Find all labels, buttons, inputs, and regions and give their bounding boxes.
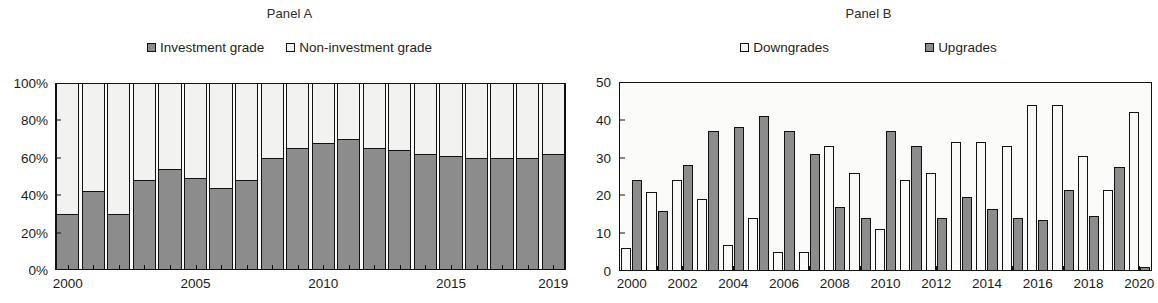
bar-segment-non-investment-grade bbox=[82, 83, 105, 191]
bar-segment-investment-grade bbox=[107, 214, 130, 270]
x-axis-tick-label: 2008 bbox=[820, 276, 850, 291]
bar-segment-non-investment-grade bbox=[439, 83, 462, 156]
bar-downgrades bbox=[926, 173, 936, 271]
y-axis-tick-label: 100% bbox=[13, 76, 48, 91]
y-axis-tick bbox=[619, 157, 625, 158]
x-axis-tick-label: 2019 bbox=[538, 276, 568, 291]
table-row bbox=[234, 83, 260, 270]
y-axis-tick-label: 0% bbox=[28, 263, 48, 278]
table-row bbox=[183, 83, 209, 270]
bar-segment-non-investment-grade bbox=[414, 83, 437, 154]
legend-label: Non-investment grade bbox=[299, 40, 432, 55]
bar-downgrades bbox=[672, 180, 682, 271]
x-axis-tick bbox=[784, 266, 785, 271]
bar-segment-investment-grade bbox=[312, 143, 335, 270]
y-axis-tick bbox=[55, 120, 61, 121]
table-row bbox=[1127, 82, 1152, 271]
bar-segment-non-investment-grade bbox=[107, 83, 130, 214]
table-row bbox=[695, 82, 720, 271]
table-row bbox=[873, 82, 898, 271]
bar-segment-non-investment-grade bbox=[133, 83, 156, 180]
x-axis-tick bbox=[272, 265, 273, 270]
bar-segment-investment-grade bbox=[516, 158, 539, 270]
bar-downgrades bbox=[1052, 105, 1062, 271]
x-axis-tick-label: 2016 bbox=[1023, 276, 1053, 291]
table-row bbox=[489, 83, 515, 270]
x-axis-tick bbox=[682, 266, 683, 271]
x-axis-tick bbox=[1012, 266, 1013, 271]
y-axis-tick-label: 10 bbox=[596, 226, 611, 241]
x-axis-tick bbox=[451, 265, 452, 270]
bar-upgrades bbox=[683, 165, 693, 271]
x-axis-tick bbox=[502, 265, 503, 270]
x-axis-tick-label: 2018 bbox=[1074, 276, 1104, 291]
bar-upgrades bbox=[1140, 267, 1150, 271]
y-axis-tick-label: 0 bbox=[603, 264, 611, 279]
panel-b-plot-area bbox=[619, 82, 1152, 271]
x-axis-tick-label: 2005 bbox=[180, 276, 210, 291]
bar-segment-investment-grade bbox=[235, 180, 258, 270]
y-axis-tick-label: 60% bbox=[21, 150, 48, 165]
bar-downgrades bbox=[646, 192, 656, 271]
legend-swatch-icon bbox=[286, 43, 295, 52]
x-axis-tick bbox=[860, 266, 861, 271]
bar-downgrades bbox=[951, 142, 961, 271]
figure-two-panel-bar-charts: Panel A Investment grade Non-investment … bbox=[0, 0, 1158, 303]
legend-swatch-icon bbox=[925, 43, 934, 52]
panel-b: Panel B Downgrades Upgrades 01020304050 … bbox=[579, 0, 1158, 303]
table-row bbox=[81, 83, 107, 270]
x-axis-tick bbox=[298, 265, 299, 270]
bar-downgrades bbox=[1027, 105, 1037, 271]
bar-segment-investment-grade bbox=[158, 169, 181, 270]
x-axis-tick-label: 2010 bbox=[870, 276, 900, 291]
legend-item-investment-grade: Investment grade bbox=[147, 40, 264, 55]
bar-downgrades bbox=[1078, 156, 1088, 271]
bar-segment-non-investment-grade bbox=[465, 83, 488, 158]
bar-upgrades bbox=[1114, 167, 1124, 271]
x-axis-tick bbox=[632, 266, 633, 271]
table-row bbox=[721, 82, 746, 271]
bar-upgrades bbox=[1038, 220, 1048, 271]
bar-upgrades bbox=[835, 207, 845, 271]
legend-swatch-icon bbox=[740, 43, 749, 52]
x-axis-tick-label: 2015 bbox=[436, 276, 466, 291]
bar-downgrades bbox=[697, 199, 707, 271]
panel-a-legend: Investment grade Non-investment grade bbox=[0, 40, 579, 55]
y-axis-tick bbox=[55, 232, 61, 233]
bar-segment-non-investment-grade bbox=[261, 83, 284, 158]
bar-segment-non-investment-grade bbox=[542, 83, 565, 154]
table-row bbox=[822, 82, 847, 271]
table-row bbox=[670, 82, 695, 271]
x-axis-tick bbox=[835, 266, 836, 271]
x-axis-tick bbox=[553, 265, 554, 270]
bar-segment-investment-grade bbox=[465, 158, 488, 270]
x-axis-tick bbox=[400, 265, 401, 270]
bar-downgrades bbox=[723, 245, 733, 271]
table-row bbox=[847, 82, 872, 271]
bar-upgrades bbox=[962, 197, 972, 271]
x-axis-tick bbox=[962, 266, 963, 271]
x-axis-tick bbox=[1063, 266, 1064, 271]
bar-segment-investment-grade bbox=[490, 158, 513, 270]
table-row bbox=[362, 83, 388, 270]
table-row bbox=[259, 83, 285, 270]
bar-upgrades bbox=[1089, 216, 1099, 271]
bar-segment-investment-grade bbox=[363, 148, 386, 270]
bar-upgrades bbox=[810, 154, 820, 271]
bar-upgrades bbox=[1013, 218, 1023, 271]
bar-upgrades bbox=[911, 146, 921, 271]
bar-upgrades bbox=[632, 180, 642, 271]
bar-segment-investment-grade bbox=[56, 214, 79, 270]
bar-segment-investment-grade bbox=[439, 156, 462, 270]
bar-upgrades bbox=[886, 131, 896, 271]
y-axis-tick bbox=[619, 195, 625, 196]
x-axis-tick bbox=[93, 265, 94, 270]
bar-segment-non-investment-grade bbox=[490, 83, 513, 158]
table-row bbox=[1000, 82, 1025, 271]
bar-segment-investment-grade bbox=[337, 139, 360, 270]
y-axis-tick-label: 80% bbox=[21, 113, 48, 128]
x-axis-tick-label: 2000 bbox=[617, 276, 647, 291]
x-axis-tick bbox=[1139, 266, 1140, 271]
x-axis-tick bbox=[323, 265, 324, 270]
y-axis-tick-label: 30 bbox=[596, 150, 611, 165]
